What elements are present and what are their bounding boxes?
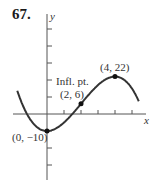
point-marker [113,74,118,79]
point-marker [79,101,84,106]
graph: y x (0, −10) Infl. pt. (2, 6) (4, 22) [0,0,165,191]
x-axis-label: x [143,114,149,126]
min-point-label: (0, −10) [12,131,48,144]
inflection-title-label: Infl. pt. [56,75,89,87]
max-point-label: (4, 22) [100,61,130,74]
inflection-point-label: (2, 6) [60,88,84,101]
y-axis-label: y [49,10,55,22]
